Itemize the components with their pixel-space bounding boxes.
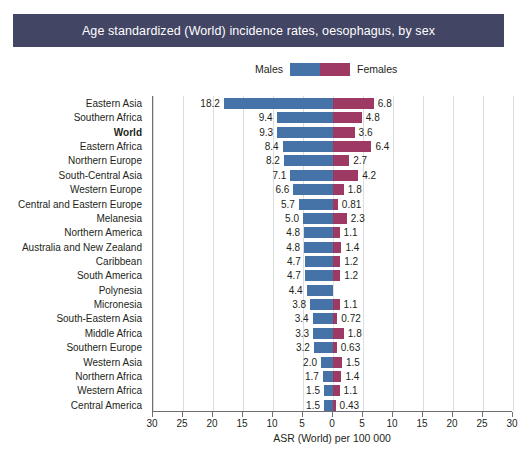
- category-label: Micronesia: [0, 297, 147, 312]
- chart-row[interactable]: 4.71.2: [153, 254, 512, 269]
- bar-female[interactable]: [333, 199, 338, 210]
- chart-row[interactable]: 5.02.3: [153, 211, 512, 226]
- bar-male[interactable]: [310, 299, 333, 310]
- bar-female[interactable]: [333, 184, 344, 195]
- bar-male[interactable]: [277, 127, 333, 138]
- bar-female[interactable]: [333, 170, 358, 181]
- bar-male[interactable]: [304, 227, 333, 238]
- chart-row[interactable]: 3.40.72: [153, 311, 512, 326]
- x-axis-tick-label: 30: [506, 418, 517, 429]
- chart-row[interactable]: 3.20.63: [153, 340, 512, 355]
- category-label: Polynesia: [0, 283, 147, 298]
- bar-female[interactable]: [333, 155, 349, 166]
- chart-row[interactable]: 3.31.8: [153, 326, 512, 341]
- plot-area: 18.26.89.44.89.33.68.46.48.22.77.14.26.6…: [152, 96, 512, 412]
- bar-female[interactable]: [333, 400, 336, 411]
- value-label-female: 1.2: [344, 254, 358, 269]
- bar-female[interactable]: [333, 112, 362, 123]
- category-label: Northern America: [0, 225, 147, 240]
- value-label-female: 1.5: [346, 355, 360, 370]
- bar-female[interactable]: [333, 342, 337, 353]
- chart-row[interactable]: 8.22.7: [153, 153, 512, 168]
- x-axis-tick-label: 20: [446, 418, 457, 429]
- bar-male[interactable]: [321, 357, 333, 368]
- category-label: Western Europe: [0, 182, 147, 197]
- chart-row[interactable]: 5.70.81: [153, 197, 512, 212]
- bar-female[interactable]: [333, 98, 374, 109]
- bar-female[interactable]: [333, 357, 342, 368]
- value-label-female: 1.1: [344, 383, 358, 398]
- chart-row[interactable]: 4.81.1: [153, 225, 512, 240]
- bar-male[interactable]: [314, 342, 333, 353]
- bar-female[interactable]: [333, 141, 371, 152]
- chart-row[interactable]: 3.81.1: [153, 297, 512, 312]
- category-label: Australia and New Zealand: [0, 240, 147, 255]
- x-axis-tick-label: 25: [176, 418, 187, 429]
- value-label-male: 5.0: [259, 211, 299, 226]
- bar-female[interactable]: [333, 299, 340, 310]
- bar-female[interactable]: [333, 227, 340, 238]
- value-label-female: 1.8: [348, 326, 362, 341]
- category-label: Central and Eastern Europe: [0, 197, 147, 212]
- chart-row[interactable]: 4.71.2: [153, 268, 512, 283]
- chart-row[interactable]: 7.14.2: [153, 168, 512, 183]
- value-label-female: 4.2: [362, 168, 376, 183]
- bar-male[interactable]: [313, 313, 333, 324]
- value-label-male: 18.2: [180, 96, 220, 111]
- bar-female[interactable]: [333, 313, 337, 324]
- bar-female[interactable]: [333, 256, 340, 267]
- bar-male[interactable]: [284, 155, 333, 166]
- bar-male[interactable]: [304, 242, 333, 253]
- category-label: South America: [0, 268, 147, 283]
- bar-female[interactable]: [333, 242, 341, 253]
- bar-male[interactable]: [303, 213, 333, 224]
- bar-male[interactable]: [224, 98, 333, 109]
- chart-row[interactable]: 4.4: [153, 283, 512, 298]
- bar-female[interactable]: [333, 270, 340, 281]
- category-label: Northern Africa: [0, 369, 147, 384]
- category-label: Western Asia: [0, 355, 147, 370]
- bar-female[interactable]: [333, 127, 355, 138]
- bar-female[interactable]: [333, 328, 344, 339]
- bar-female[interactable]: [333, 371, 341, 382]
- chart-row[interactable]: 1.50.43: [153, 398, 512, 413]
- bar-male[interactable]: [324, 385, 333, 396]
- category-label: World: [0, 125, 147, 140]
- bar-male[interactable]: [313, 328, 333, 339]
- x-axis-tick: [512, 412, 513, 417]
- value-label-female: 6.4: [375, 139, 389, 154]
- bar-male[interactable]: [305, 270, 333, 281]
- chart-row[interactable]: 1.71.4: [153, 369, 512, 384]
- bar-female[interactable]: [333, 385, 340, 396]
- bar-male[interactable]: [323, 371, 333, 382]
- bar-male[interactable]: [299, 199, 333, 210]
- x-axis-tick-label: 20: [206, 418, 217, 429]
- bar-male[interactable]: [324, 400, 333, 411]
- chart-row[interactable]: 9.44.8: [153, 110, 512, 125]
- bar-male[interactable]: [305, 256, 333, 267]
- bar-male[interactable]: [290, 170, 333, 181]
- chart-row[interactable]: 2.01.5: [153, 355, 512, 370]
- bar-male[interactable]: [283, 141, 333, 152]
- bar-male[interactable]: [277, 112, 333, 123]
- chart-row[interactable]: 4.81.4: [153, 240, 512, 255]
- value-label-female: 0.72: [341, 311, 360, 326]
- x-axis-title: ASR (World) per 100 000: [152, 432, 512, 444]
- bar-male[interactable]: [307, 285, 333, 296]
- x-axis-tick: [212, 412, 213, 417]
- x-axis: 30252015105051015202530: [152, 412, 512, 432]
- chart-row[interactable]: 6.61.8: [153, 182, 512, 197]
- x-axis-tick-label: 15: [416, 418, 427, 429]
- chart-row[interactable]: 9.33.6: [153, 125, 512, 140]
- chart-row[interactable]: 18.26.8: [153, 96, 512, 111]
- chart-row[interactable]: 8.46.4: [153, 139, 512, 154]
- bar-female[interactable]: [333, 213, 347, 224]
- category-label: Eastern Asia: [0, 96, 147, 111]
- category-label: Southern Europe: [0, 340, 147, 355]
- chart-row[interactable]: 1.51.1: [153, 383, 512, 398]
- bar-male[interactable]: [293, 184, 333, 195]
- x-axis-tick: [182, 412, 183, 417]
- value-label-female: 3.6: [359, 125, 373, 140]
- x-axis-tick: [332, 412, 333, 417]
